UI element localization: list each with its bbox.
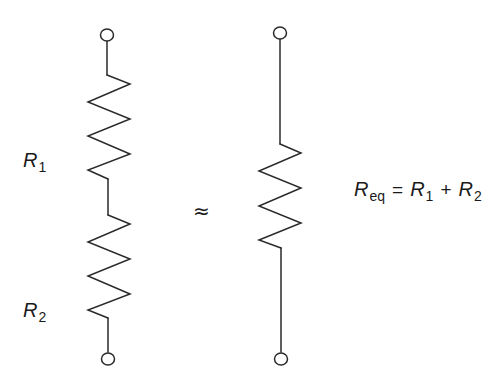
right-equivalent-circuit (259, 27, 301, 365)
label-r1-main: R (23, 149, 37, 171)
label-r2: R2 (23, 300, 46, 320)
approx-symbol: ≈ (193, 201, 210, 221)
left-series-circuit (88, 29, 130, 365)
label-r2-main: R (23, 299, 37, 321)
eq-term1-sub: 1 (426, 188, 434, 204)
eq-term1-main: R (410, 178, 424, 200)
resistor-r2-zigzag (88, 215, 130, 318)
resistor-r1-zigzag (88, 75, 130, 179)
terminal-bottom-left (102, 353, 115, 365)
eq-term2-main: R (459, 178, 473, 200)
eq-equals: = (392, 179, 403, 200)
eq-plus: + (440, 179, 451, 200)
label-r2-sub: 2 (38, 309, 46, 325)
resistor-req-zigzag (259, 144, 301, 248)
terminal-top-left (101, 29, 114, 41)
eq-lhs-sub: eq (369, 188, 385, 204)
eq-term2-sub: 2 (474, 188, 482, 204)
equation: Req=R1+R2 (354, 179, 482, 199)
terminal-bottom-right (275, 353, 288, 365)
terminal-top-right (274, 27, 287, 39)
eq-lhs-main: R (354, 178, 368, 200)
label-r1: R1 (23, 150, 46, 170)
label-r1-sub: 1 (38, 159, 46, 175)
